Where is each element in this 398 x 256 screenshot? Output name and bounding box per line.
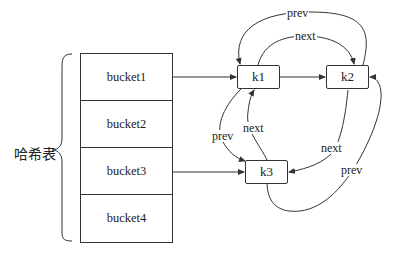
edges-layer — [0, 0, 398, 256]
edge-label-k2-k3-next: next — [320, 142, 343, 154]
node-k3: k3 — [245, 160, 288, 184]
bucket-4: bucket4 — [81, 195, 172, 242]
edge-label-k1-k3-prev: prev — [211, 130, 234, 142]
edge-label-k1-k2-next: next — [294, 30, 317, 42]
hash-table-label: 哈希表 — [14, 143, 56, 163]
hash-table: bucket1 bucket2 bucket3 bucket4 — [80, 53, 173, 243]
edge-label-k3-k2-prev: prev — [340, 164, 363, 176]
edge-label-k2-k1-prev: prev — [286, 7, 309, 19]
node-k2: k2 — [326, 65, 369, 89]
k2-to-k3-next-arc — [289, 90, 348, 172]
edge-label-k3-k1-next: next — [242, 122, 265, 134]
hash-linked-list-diagram: 哈希表 bucket1 bucket2 bucket3 bucket4 k1 k… — [0, 0, 398, 256]
bucket-1: bucket1 — [81, 54, 172, 101]
node-k1: k1 — [237, 65, 280, 89]
bucket-2: bucket2 — [81, 101, 172, 148]
bucket-3: bucket3 — [81, 148, 172, 195]
